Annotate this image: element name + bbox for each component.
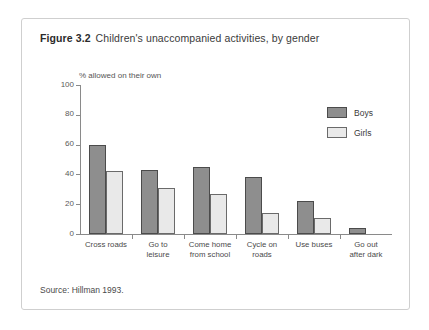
y-tick-mark xyxy=(76,145,80,146)
bar-girls[interactable] xyxy=(210,194,227,234)
source-note: Source: Hillman 1993. xyxy=(40,285,124,295)
x-tick-mark xyxy=(288,235,289,239)
bar-girls[interactable] xyxy=(262,213,279,234)
legend-label-boys: Boys xyxy=(354,108,373,118)
y-axis-line xyxy=(80,85,81,235)
x-tick-mark xyxy=(184,235,185,239)
y-axis-label: % allowed on their own xyxy=(79,71,161,80)
x-axis-category-labels: Cross roadsGo toleisureCome homefrom sch… xyxy=(80,240,392,280)
chart-legend: Boys Girls xyxy=(327,107,373,147)
x-axis-label-line: Go out xyxy=(335,240,397,250)
x-tick-mark xyxy=(340,235,341,239)
x-axis-label-6: Go outafter dark xyxy=(335,240,397,260)
legend-swatch-girls-icon xyxy=(327,127,347,138)
bar-group xyxy=(297,85,331,234)
figure-frame: Figure 3.2Children's unaccompanied activ… xyxy=(21,18,410,310)
bar-group xyxy=(89,85,123,234)
y-tick-label: 0 xyxy=(70,229,74,238)
bar-boys[interactable] xyxy=(297,201,314,234)
bar-girls[interactable] xyxy=(106,171,123,234)
y-tick-label: 100 xyxy=(61,80,74,89)
bar-boys[interactable] xyxy=(245,177,262,234)
y-tick-label: 60 xyxy=(65,139,74,148)
bar-girls[interactable] xyxy=(314,218,331,234)
figure-title-text: Children's unaccompanied activities, by … xyxy=(96,32,320,44)
x-axis-label-line: after dark xyxy=(335,250,397,260)
x-axis-label-line: roads xyxy=(231,250,293,260)
y-tick-label: 40 xyxy=(65,169,74,178)
bar-boys[interactable] xyxy=(349,228,366,234)
x-tick-mark xyxy=(236,235,237,239)
bar-boys[interactable] xyxy=(89,145,106,234)
bar-group xyxy=(141,85,175,234)
y-tick-label: 20 xyxy=(65,199,74,208)
x-tick-mark xyxy=(132,235,133,239)
bar-girls[interactable] xyxy=(158,188,175,234)
legend-label-girls: Girls xyxy=(354,128,371,138)
y-tick-mark xyxy=(76,115,80,116)
y-tick-mark xyxy=(76,85,80,86)
bar-boys[interactable] xyxy=(193,167,210,234)
figure-number: Figure 3.2 xyxy=(40,32,91,44)
y-tick-mark xyxy=(76,204,80,205)
y-tick-label: 80 xyxy=(65,109,74,118)
figure-title: Figure 3.2Children's unaccompanied activ… xyxy=(40,32,319,44)
y-tick-mark xyxy=(76,174,80,175)
bar-group xyxy=(245,85,279,234)
y-tick-mark xyxy=(76,234,80,235)
legend-item-girls: Girls xyxy=(327,127,373,138)
legend-item-boys: Boys xyxy=(327,107,373,118)
bar-group xyxy=(193,85,227,234)
legend-swatch-boys-icon xyxy=(327,107,347,118)
bar-boys[interactable] xyxy=(141,170,158,234)
